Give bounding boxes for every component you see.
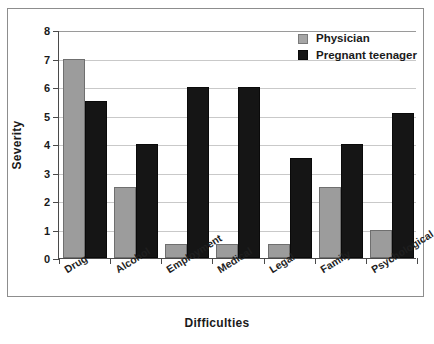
bar-group-end	[417, 31, 418, 258]
legend-item: Pregnant teenager	[298, 50, 417, 62]
x-tick	[315, 258, 316, 264]
bar	[85, 101, 107, 258]
y-tick-label-7: 7	[44, 54, 50, 65]
x-tick	[110, 258, 111, 264]
y-tick-label-6: 6	[44, 83, 50, 94]
x-tick	[417, 258, 418, 264]
legend-swatch-icon	[298, 34, 308, 44]
bar-group	[110, 31, 161, 258]
bar-group	[161, 31, 212, 258]
legend-swatch-icon	[298, 50, 308, 60]
figure-frame: Severity 012345678 DrugAlcoholEmployment…	[7, 8, 424, 297]
y-tick-label-8: 8	[44, 26, 50, 37]
bar	[290, 158, 312, 258]
bar	[114, 187, 136, 258]
bar-chart: Severity 012345678 DrugAlcoholEmployment…	[0, 0, 434, 344]
bar-group	[212, 31, 263, 258]
legend-label: Physician	[316, 33, 370, 45]
y-tick-label-3: 3	[44, 168, 50, 179]
x-tick	[264, 258, 265, 264]
x-tick	[212, 258, 213, 264]
bar	[238, 87, 260, 258]
x-tick	[366, 258, 367, 264]
bar	[341, 144, 363, 258]
bar	[136, 144, 158, 258]
legend: PhysicianPregnant teenager	[298, 33, 417, 66]
y-tick-label-5: 5	[44, 111, 50, 122]
bar-group	[59, 31, 110, 258]
x-tick	[161, 258, 162, 264]
y-axis-title: Severity	[10, 120, 24, 169]
bar	[392, 113, 414, 258]
bar	[319, 187, 341, 258]
x-axis-title: Difficulties	[0, 316, 434, 330]
y-tick-label-0: 0	[44, 254, 50, 265]
legend-label: Pregnant teenager	[316, 50, 417, 62]
y-tick-label-1: 1	[44, 225, 50, 236]
bar	[63, 59, 85, 259]
legend-item: Physician	[298, 33, 417, 45]
x-tick	[59, 258, 60, 264]
bar	[187, 87, 209, 258]
y-tick-label-2: 2	[44, 197, 50, 208]
y-tick-label-4: 4	[44, 140, 50, 151]
